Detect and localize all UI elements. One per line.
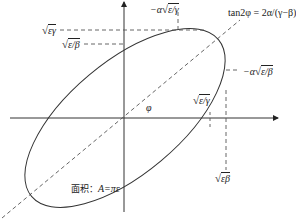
- label-y-at-x-max: −α√ε/β: [243, 65, 273, 77]
- label-x-max: √εβ: [215, 172, 230, 184]
- label-x-at-y-max: −α√ε/γ: [150, 3, 179, 15]
- label-y-max: √εγ: [42, 24, 56, 36]
- area-label: 面积：A=πε: [71, 184, 120, 194]
- label-x-intercept: √ε/γ: [193, 94, 210, 106]
- phase-ellipse: [0, 0, 254, 220]
- label-y-intercept: √ε/β: [62, 38, 80, 50]
- formula-label: tan2φ = 2α/(γ−β): [228, 8, 296, 18]
- angle-phi-label: φ: [146, 103, 152, 113]
